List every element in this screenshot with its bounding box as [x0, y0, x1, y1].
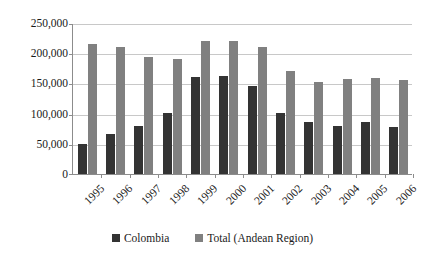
- y-axis-tick-label: 0: [0, 169, 68, 181]
- bar-groups: [73, 24, 412, 174]
- bar-colombia: [276, 113, 285, 174]
- bar-total-andean-region: [371, 78, 380, 174]
- bar-group: [243, 24, 271, 174]
- bar-total-andean-region: [144, 57, 153, 174]
- bar-group: [186, 24, 214, 174]
- bar-colombia: [78, 144, 87, 174]
- legend-swatch-icon: [195, 234, 203, 242]
- bar-colombia: [163, 113, 172, 174]
- bar-total-andean-region: [314, 82, 323, 174]
- y-axis-labels: 250,000 200,000 150,000 100,000 50,000 0: [0, 0, 68, 175]
- bar-total-andean-region: [258, 47, 267, 174]
- y-axis-tick: [69, 174, 73, 175]
- x-axis-labels: 1995199619971998199920002001200220032004…: [72, 176, 412, 231]
- bar-group: [356, 24, 384, 174]
- legend-label: Total (Andean Region): [207, 232, 313, 244]
- x-axis-tick-label: 2002: [272, 182, 305, 215]
- bar-colombia: [333, 126, 342, 174]
- y-axis-tick-label: 200,000: [0, 48, 68, 60]
- legend-label: Colombia: [124, 232, 169, 244]
- bar-colombia: [389, 127, 398, 174]
- x-axis-tick-label: 2003: [301, 182, 334, 215]
- bar-group: [328, 24, 356, 174]
- bar-colombia: [361, 122, 370, 174]
- bar-total-andean-region: [343, 79, 352, 174]
- bar-group: [158, 24, 186, 174]
- x-axis-tick-label: 2001: [244, 182, 277, 215]
- y-axis-tick-label: 100,000: [0, 109, 68, 121]
- x-axis-tick-label: 2000: [216, 182, 249, 215]
- bar-colombia: [304, 122, 313, 174]
- bar-group: [300, 24, 328, 174]
- legend-item-colombia: Colombia: [112, 232, 169, 244]
- bar-total-andean-region: [116, 47, 125, 174]
- x-axis-tick-label: 1998: [159, 182, 192, 215]
- x-axis-tick-label: 1999: [187, 182, 220, 215]
- x-axis-tick-label: 1995: [74, 182, 107, 215]
- x-axis-tick-label: 2006: [386, 182, 419, 215]
- plot-area: [72, 24, 412, 175]
- y-axis-tick-label: 250,000: [0, 18, 68, 30]
- y-axis-tick-label: 50,000: [0, 139, 68, 151]
- bar-group: [101, 24, 129, 174]
- chart-legend: Colombia Total (Andean Region): [0, 232, 425, 244]
- bar-colombia: [106, 134, 115, 174]
- x-axis-tick-label: 1997: [131, 182, 164, 215]
- bar-total-andean-region: [201, 41, 210, 174]
- bar-colombia: [191, 77, 200, 174]
- x-axis-tick-label: 2005: [357, 182, 390, 215]
- bar-group: [73, 24, 101, 174]
- legend-swatch-icon: [112, 234, 120, 242]
- bar-group: [130, 24, 158, 174]
- bar-total-andean-region: [88, 44, 97, 174]
- x-axis-tick-label: 2004: [329, 182, 362, 215]
- bar-group: [215, 24, 243, 174]
- bar-total-andean-region: [286, 71, 295, 174]
- bar-total-andean-region: [229, 41, 238, 174]
- y-axis-tick-label: 150,000: [0, 78, 68, 90]
- bar-colombia: [219, 76, 228, 174]
- x-axis-tick-label: 1996: [102, 182, 135, 215]
- bar-colombia: [248, 86, 257, 174]
- bar-group: [385, 24, 413, 174]
- bar-total-andean-region: [399, 80, 408, 174]
- bar-chart: 250,000 200,000 150,000 100,000 50,000 0…: [0, 0, 425, 266]
- bar-group: [271, 24, 299, 174]
- bar-colombia: [134, 126, 143, 174]
- bar-total-andean-region: [173, 59, 182, 174]
- legend-item-total: Total (Andean Region): [195, 232, 313, 244]
- x-axis-tick: [413, 174, 414, 178]
